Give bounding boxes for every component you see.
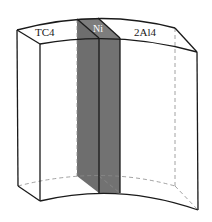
label-ni: Ni [93, 23, 103, 34]
ni-interlayer-side-face [77, 19, 99, 193]
diagram-canvas: TC4 Ni 2Al4 [0, 0, 212, 222]
ni-interlayer-front-face [99, 38, 120, 193]
bimetal-block-diagram: TC4 Ni 2Al4 [0, 0, 212, 222]
label-2al4: 2Al4 [134, 26, 157, 38]
label-tc4: TC4 [35, 26, 55, 38]
